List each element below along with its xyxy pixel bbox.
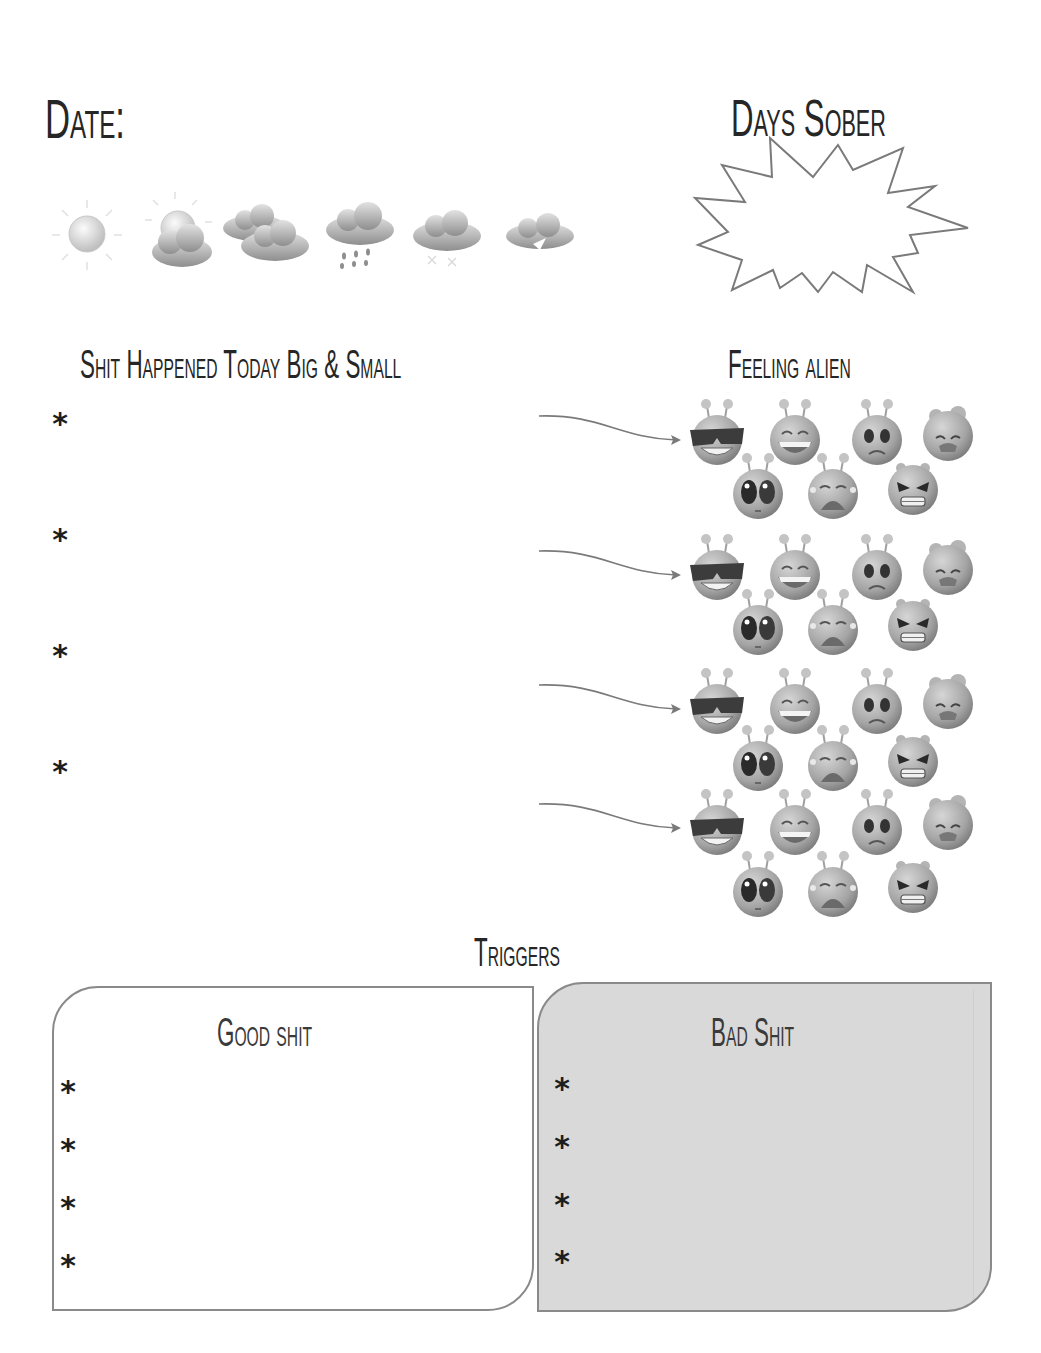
weather-option-rain[interactable] [324,200,396,272]
mood-laughing-icon[interactable] [770,548,820,602]
mood-shocked-icon[interactable] [733,739,783,793]
bullet-icon: * [59,1196,81,1218]
bullet-icon: * [553,1250,575,1272]
days-sober-value[interactable] [760,200,900,250]
mood-crying-icon[interactable] [808,603,858,657]
mood-shocked-icon[interactable] [733,467,783,521]
bullet-icon: * [51,760,73,782]
mood-cool-icon[interactable] [692,413,742,467]
event-entry-1[interactable] [85,405,525,465]
mood-shocked-icon[interactable] [733,603,783,657]
mood-sick-icon[interactable] [923,677,973,731]
bullet-icon: * [553,1193,575,1215]
mood-crying-icon[interactable] [808,467,858,521]
arrow-icon [539,416,676,440]
arrow-icon [539,685,676,709]
mood-angry-icon[interactable] [888,735,938,789]
good-trigger-entry-4[interactable] [90,1249,510,1289]
bullet-icon: * [553,1077,575,1099]
bad-trigger-entry-1[interactable] [585,1072,965,1112]
mood-angry-icon[interactable] [888,599,938,653]
mood-cool-icon[interactable] [692,803,742,857]
mood-cool-icon[interactable] [692,548,742,602]
good-trigger-entry-2[interactable] [90,1133,510,1173]
mood-laughing-icon[interactable] [770,413,820,467]
good-trigger-entry-3[interactable] [90,1191,510,1231]
bad-trigger-entry-2[interactable] [585,1130,965,1170]
days-sober-starburst[interactable] [0,0,1041,320]
event-entry-3[interactable] [85,637,525,697]
mood-angry-icon[interactable] [888,463,938,517]
event-entry-4[interactable] [85,753,525,813]
bullet-icon: * [59,1138,81,1160]
bullet-icon: * [51,412,73,434]
weather-option-snow[interactable] [410,205,484,273]
arrow-icon [539,551,676,575]
triggers-title: Triggers [474,930,560,975]
good-triggers-title: Good shit [217,1010,312,1055]
mood-worried-icon[interactable] [852,413,902,467]
mood-worried-icon[interactable] [852,548,902,602]
events-title: Shit Happened Today Big & Small [80,342,401,387]
mood-angry-icon[interactable] [888,861,938,915]
bad-triggers-title: Bad Shit [711,1010,794,1055]
bullet-icon: * [51,644,73,666]
bullet-icon: * [59,1254,81,1276]
mood-sick-icon[interactable] [923,409,973,463]
mood-worried-icon[interactable] [852,803,902,857]
arrow-icon [539,804,676,828]
weather-option-thunderstorm[interactable] [502,205,576,271]
bullet-icon: * [553,1135,575,1157]
weather-option-partly-cloudy[interactable] [140,190,215,272]
bullet-icon: * [51,528,73,550]
weather-option-sunny[interactable] [50,195,126,273]
mood-laughing-icon[interactable] [770,803,820,857]
mood-sick-icon[interactable] [923,798,973,852]
mood-cool-icon[interactable] [692,682,742,736]
mood-worried-icon[interactable] [852,682,902,736]
event-entry-2[interactable] [85,521,525,581]
bullet-icon: * [59,1080,81,1102]
good-trigger-entry-1[interactable] [90,1075,510,1115]
bad-trigger-entry-3[interactable] [585,1188,965,1228]
mood-shocked-icon[interactable] [733,865,783,919]
bad-trigger-entry-4[interactable] [585,1245,965,1285]
mood-sick-icon[interactable] [923,543,973,597]
mood-crying-icon[interactable] [808,739,858,793]
mood-laughing-icon[interactable] [770,682,820,736]
feelings-title: Feeling alien [728,342,851,387]
weather-option-cloudy[interactable] [220,200,312,266]
mood-crying-icon[interactable] [808,865,858,919]
